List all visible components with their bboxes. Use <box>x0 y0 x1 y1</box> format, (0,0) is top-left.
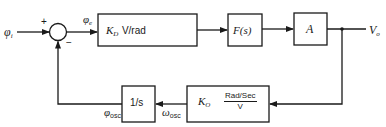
output-node-dot <box>340 27 344 31</box>
input-label: φi <box>4 26 13 40</box>
summing-junction <box>50 24 67 41</box>
diagram-lines <box>0 0 386 127</box>
vco-block: KO Rad/Sec V <box>198 92 257 111</box>
loop-filter-block: F(s) <box>233 25 251 36</box>
integrator-block: 1/s <box>130 98 143 108</box>
amplifier-block: A <box>306 23 313 35</box>
phase-detector-block: KD V/rad <box>106 25 146 38</box>
phi-osc-label: φosc <box>104 107 121 119</box>
omega-osc-label: ωosc <box>162 107 181 119</box>
plus-sign: + <box>41 17 47 27</box>
minus-sign: − <box>66 38 72 48</box>
output-label: Vo <box>369 24 380 38</box>
error-signal-label: φe <box>83 14 92 27</box>
